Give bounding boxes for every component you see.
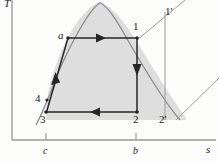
aux-line-lower-right	[176, 78, 219, 120]
x-axis-label: s	[206, 144, 210, 155]
aux-line-to-1prime	[137, 0, 185, 40]
state-label-4: 4	[35, 93, 41, 104]
state-label-2-prime: 2'	[159, 114, 166, 125]
point-1	[135, 36, 139, 40]
ts-diagram-figure: T s c b a 1 1' 2 2' 3 4	[0, 0, 219, 164]
point-4	[45, 98, 48, 101]
y-axis-label: T	[4, 0, 10, 9]
state-label-a: a	[58, 30, 64, 41]
state-label-3: 3	[40, 114, 46, 125]
diagram-canvas	[0, 0, 219, 164]
state-label-2: 2	[133, 114, 139, 125]
state-label-1: 1	[133, 21, 139, 32]
point-a	[66, 36, 70, 40]
state-label-1-prime: 1'	[165, 6, 172, 17]
x-tick-label-c: c	[43, 146, 47, 156]
x-tick-label-b: b	[133, 146, 138, 156]
